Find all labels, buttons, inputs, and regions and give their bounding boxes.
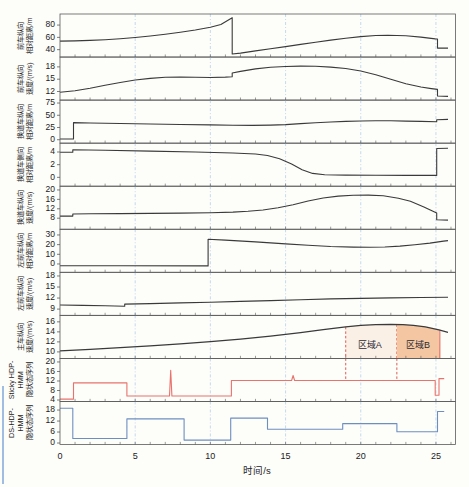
y-tick-label: 4 (50, 394, 55, 404)
panel-left-front-long-speed: 9121518左前车纵向速度/(m/s) (16, 270, 456, 315)
y-tick-label: 10 (46, 346, 56, 356)
panel-ego-long-speed: 区域A区域B10121416主车纵向速度/(m/s) (16, 315, 456, 358)
y-axis-title-line: 相对距离/m (25, 104, 34, 140)
y-axis-title-line: 左前车纵向 (16, 276, 25, 311)
y-axis-title-line: Sticky HDP- (7, 360, 16, 399)
y-tick-label: 30 (46, 229, 56, 239)
y-tick-label: 0 (50, 134, 55, 144)
panel-frame (60, 57, 456, 100)
y-tick-label: 8 (50, 385, 55, 395)
x-tick-label: 15 (281, 451, 291, 461)
y-tick-label: 8 (50, 212, 55, 222)
panel-front-long-rel-distance: 406080前车纵向相对距离/m (16, 14, 456, 57)
panel-ds-hdp-hmm-states: 061218DS-HDP-HMM隐状态序列 (7, 401, 456, 447)
x-axis-title: 时间/s (243, 465, 271, 476)
y-axis-title-line: HMM (16, 371, 25, 388)
y-tick-label: 12 (46, 375, 56, 385)
y-tick-label: 12 (46, 336, 56, 346)
y-tick-label: 50 (46, 110, 56, 120)
y-tick-label: 18 (46, 270, 56, 280)
page-edge-artifact (2, 386, 4, 484)
x-tick-label: 10 (205, 451, 215, 461)
panel-front-long-speed: 121518前车纵向速度/(m/s) (16, 57, 456, 100)
y-tick-label: 40 (46, 44, 56, 54)
curve-lane-change-long-speed (60, 195, 448, 220)
y-axis-title-line: 换道车纵向 (16, 190, 25, 225)
y-tick-label: 0 (50, 437, 55, 447)
figure-canvas: 406080前车纵向相对距离/m121518前车纵向速度/(m/s)025507… (0, 0, 469, 487)
y-axis-title-line: 左前车纵向 (16, 233, 25, 268)
y-axis-title-line: 主车纵向 (16, 323, 25, 351)
y-tick-label: 9 (50, 303, 55, 313)
curve-front-long-rel-distance (60, 18, 448, 54)
panel-frame (60, 186, 456, 229)
panel-lane-change-long-speed: 8121620换道车纵向速度/(m/s) (16, 184, 456, 229)
y-axis-title-line: 换道车纵向 (16, 104, 25, 139)
curve-ds-hdp-hmm-state-sequence (60, 408, 444, 440)
y-axis-title-line: 隐状态序列 (25, 405, 34, 440)
y-tick-label: 20 (46, 356, 56, 366)
y-tick-label: 20 (46, 184, 56, 194)
curve-sticky-hdp-hmm-state-sequence (60, 370, 444, 399)
y-tick-label: 6 (50, 426, 55, 436)
x-tick-label: 5 (133, 451, 138, 461)
y-axis-title-line: 前车纵向 (16, 65, 25, 93)
y-tick-label: 12 (46, 86, 56, 96)
curve-lane-change-lateral-rel-distance (60, 148, 448, 175)
panel-frame (60, 100, 456, 143)
y-tick-label: 15 (46, 73, 56, 83)
y-tick-label: 16 (46, 316, 56, 326)
x-tick-label: 25 (431, 451, 441, 461)
panel-frame (60, 143, 456, 186)
y-axis-title-line: 换道车侧向 (16, 147, 25, 182)
y-tick-label: 4 (50, 146, 55, 156)
panel-sticky-hdp-hmm-states: 48121620Sticky HDP-HMM隐状态序列 (7, 356, 456, 404)
y-tick-label: 16 (46, 366, 56, 376)
panel-lane-change-lateral-rel-distance: 024换道车侧向相对距离/m (16, 143, 456, 186)
y-tick-label: 18 (46, 404, 56, 414)
panel-frame (60, 358, 456, 401)
multi-panel-chart: 406080前车纵向相对距离/m121518前车纵向速度/(m/s)025507… (0, 0, 469, 487)
y-axis-title-line: 相对距离/m (25, 147, 34, 183)
x-tick-label: 20 (356, 451, 366, 461)
region-b-label: 区域B (406, 339, 430, 350)
y-tick-label: 0 (50, 172, 55, 182)
curve-left-front-long-speed (60, 297, 448, 306)
y-axis-title-line: 速度/(m/s) (25, 62, 34, 94)
y-tick-label: 10 (46, 249, 56, 259)
y-tick-label: 12 (46, 292, 56, 302)
y-axis-title-line: HMM (16, 414, 25, 431)
y-axis-title-line: 速度/(m/s) (25, 192, 34, 224)
y-axis-title-line: 相对距离/m (25, 18, 34, 54)
y-axis-title-line: 隐状态序列 (25, 362, 34, 397)
y-tick-label: 16 (46, 194, 56, 204)
y-tick-label: 20 (46, 239, 56, 249)
y-tick-label: 80 (46, 19, 56, 29)
y-tick-label: 12 (46, 203, 56, 213)
curve-lane-change-long-rel-distance (60, 119, 448, 139)
y-axis-title-line: 速度/(m/s) (25, 321, 34, 353)
y-tick-label: 15 (46, 281, 56, 291)
panel-frame (60, 272, 456, 315)
panel-lane-change-long-rel-distance: 0255075换道车纵向相对距离/m (16, 97, 456, 144)
y-axis-title-line: 速度/(m/s) (25, 278, 34, 310)
y-tick-label: 2 (50, 159, 55, 169)
y-axis-title-line: DS-HDP- (7, 407, 16, 438)
y-tick-label: 0 (50, 258, 55, 268)
y-tick-label: 14 (46, 326, 56, 336)
panel-left-front-long-rel-distance: 0102030左前车纵向相对距离/m (16, 229, 456, 272)
x-axis: 0510152025时间/s (57, 451, 440, 476)
y-tick-label: 60 (46, 32, 56, 42)
curve-front-long-speed (60, 66, 448, 96)
y-tick-label: 75 (46, 97, 56, 107)
region-a-label: 区域A (358, 339, 382, 350)
x-tick-label: 0 (57, 451, 62, 461)
curve-left-front-long-rel-distance (60, 239, 448, 266)
y-axis-title-line: 前车纵向 (16, 22, 25, 50)
y-tick-label: 25 (46, 122, 56, 132)
y-axis-title-line: 相对距离/m (25, 233, 34, 269)
y-tick-label: 12 (46, 415, 56, 425)
y-tick-label: 18 (46, 61, 56, 71)
